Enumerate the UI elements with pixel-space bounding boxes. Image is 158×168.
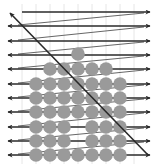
sample-circle [43,77,57,91]
sample-circle [85,120,99,134]
sample-circle [29,91,43,105]
sample-circle [85,105,99,119]
sample-circle [57,91,71,105]
sample-circle [71,91,85,105]
raster-scan-diagram [0,0,158,168]
sample-circle [29,120,43,134]
sample-circle [85,62,99,76]
return-line [18,27,144,40]
return-line [18,13,144,25]
sample-circle [57,134,71,148]
sample-circle [99,91,113,105]
sample-circle [29,105,43,119]
sample-circle [71,105,85,119]
sample-circle [85,134,99,148]
sample-circle [57,77,71,91]
sample-circle [71,47,85,61]
sample-circle [57,105,71,119]
sample-circle [113,148,127,162]
sample-circle [99,62,113,76]
sample-circle [43,120,57,134]
sample-circle [85,148,99,162]
sample-circle [113,77,127,91]
sample-circle [43,105,57,119]
sample-circle [99,120,113,134]
sample-circle [29,77,43,91]
sample-circle [43,148,57,162]
sample-circle [113,134,127,148]
sample-circle [43,134,57,148]
sample-circle [57,148,71,162]
sample-circle [71,62,85,76]
sample-circle [29,134,43,148]
sample-circle [113,105,127,119]
sample-circle [57,120,71,134]
sample-circle [99,148,113,162]
sample-circle [71,148,85,162]
sample-circle [113,91,127,105]
sample-circle [29,148,43,162]
sample-circle [43,91,57,105]
sample-circle [43,62,57,76]
sample-circle [99,134,113,148]
sample-circle [85,77,99,91]
sample-circle [99,77,113,91]
